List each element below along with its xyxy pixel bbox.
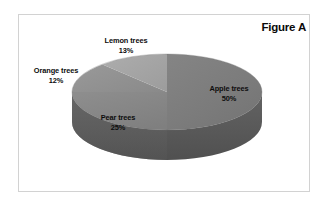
figure-container: Lemon trees 13% Orange trees 12% Apple t… bbox=[0, 0, 328, 205]
figure-title: Figure A bbox=[261, 21, 306, 33]
pie-top-surface bbox=[72, 54, 262, 130]
